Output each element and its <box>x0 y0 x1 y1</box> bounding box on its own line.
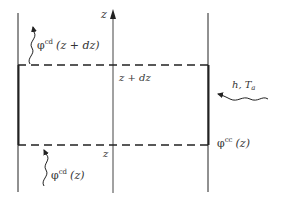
convection-label: h,Ta <box>232 79 255 92</box>
svg-text:φcc(z): φcc(z) <box>217 136 250 150</box>
flux-top-arrow-icon <box>29 27 35 64</box>
svg-text:φcd(z + dz): φcd(z + dz) <box>37 38 100 52</box>
flux-top-label: φcd(z + dz) <box>37 38 100 52</box>
flux-bottom-arrow-icon <box>43 150 48 186</box>
z-axis-label: z <box>100 8 107 21</box>
convection-arrow-icon <box>218 94 268 100</box>
flux-side-label: φcc(z) <box>217 136 250 150</box>
svg-text:h,Ta: h,Ta <box>232 79 255 92</box>
bottom-level-label: z <box>102 148 109 159</box>
control-volume-diagram: z z + dz z φcd(z + dz) φcd(z) φcc(z) h,T… <box>0 0 281 208</box>
z-axis-arrowhead <box>110 9 116 19</box>
flux-bottom-label: φcd(z) <box>51 168 85 182</box>
svg-text:φcd(z): φcd(z) <box>51 168 85 182</box>
top-level-label: z + dz <box>118 72 151 83</box>
